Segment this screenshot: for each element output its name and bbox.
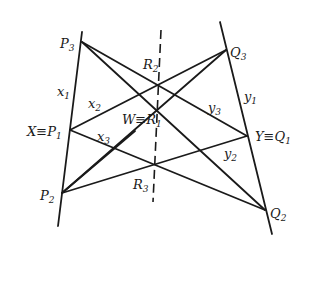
label-r3: R3: [132, 177, 149, 194]
projective-diagram: P3 x1 x2 X≡P1 x3 P2 R2 W≡R1 R3 Q3 y1 y3 …: [0, 0, 310, 290]
label-q2: Q2: [270, 206, 287, 223]
label-y2: y2: [223, 146, 237, 163]
label-w-r1: W≡R1: [122, 112, 162, 129]
line-p3-q1: [82, 42, 247, 136]
label-x2: x2: [88, 96, 101, 113]
label-x1: x1: [57, 84, 70, 101]
label-x3: x3: [97, 129, 110, 146]
line-p3-q2: [82, 42, 265, 210]
label-y-q1: Y≡Q1: [255, 129, 291, 146]
label-q3: Q3: [230, 45, 247, 62]
label-y1: y1: [243, 89, 257, 106]
label-y3: y3: [207, 100, 221, 117]
label-p3: P3: [59, 36, 75, 53]
label-r2: R2: [142, 57, 159, 74]
label-p2: P2: [39, 188, 55, 205]
label-x-p1: X≡P1: [26, 124, 62, 141]
